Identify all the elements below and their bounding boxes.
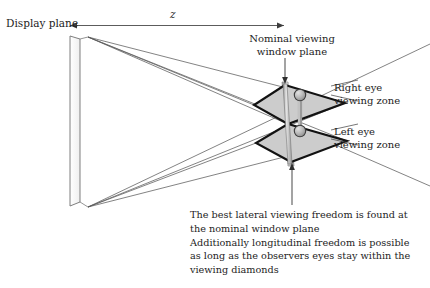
left-eye-viewing-zone-label: Left eye viewing zone	[334, 125, 426, 151]
note-line-3: Additionally longitudinal freedom is pos…	[190, 236, 430, 250]
z-axis-label: z	[170, 8, 176, 22]
nominal-window-plane-line-2: window plane	[237, 45, 347, 58]
left-eye-label-line-2: viewing zone	[334, 138, 426, 151]
right-eye-label-line-1: Right eye	[334, 81, 426, 94]
nominal-window-leader-arrow	[282, 58, 288, 84]
display-plane-label: Display plane	[6, 17, 78, 31]
nominal-window-plane-line-1: Nominal viewing	[237, 32, 347, 45]
note-line-2: the nominal window plane	[190, 222, 430, 236]
viewing-freedom-note: The best lateral viewing freedom is foun…	[190, 208, 430, 277]
note-line-1: The best lateral viewing freedom is foun…	[190, 208, 430, 222]
viewing-diamonds-leader-arrow	[289, 163, 295, 205]
right-eye-viewing-zone-label: Right eye viewing zone	[334, 81, 426, 107]
right-eye-sphere-icon	[294, 89, 305, 100]
z-dimension-arrow	[70, 23, 284, 29]
note-line-5: viewing diamonds	[190, 263, 430, 277]
left-eye-sphere-icon	[294, 125, 305, 136]
note-line-4: as long as the observers eyes stay withi…	[190, 249, 430, 263]
display-plane-shape	[70, 36, 88, 207]
right-eye-label-line-2: viewing zone	[334, 94, 426, 107]
left-eye-label-line-1: Left eye	[334, 125, 426, 138]
nominal-window-plane-label: Nominal viewing window plane	[237, 32, 347, 58]
diagram-canvas: Display plane z Nominal viewing window p…	[0, 0, 430, 288]
